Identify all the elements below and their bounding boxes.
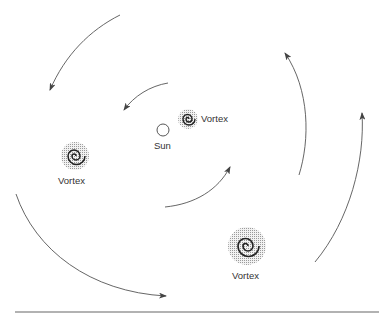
arrow-inner-top [124, 83, 168, 110]
arrow-outer-top-left [50, 15, 120, 90]
vortex-diagram: Sun Vortex Vortex Vortex [0, 0, 379, 313]
arrow-outer-right-1 [285, 53, 306, 175]
sun-icon [157, 124, 169, 136]
sun-node: Sun [154, 124, 171, 151]
vortex-left-label: Vortex [58, 175, 85, 186]
sun-label: Sun [154, 140, 171, 151]
vortex-large-label: Vortex [232, 270, 259, 281]
vortex-left-node: Vortex [58, 142, 89, 186]
arrow-outer-right-2 [315, 113, 362, 262]
vortex-halo-icon [228, 227, 266, 265]
arrow-inner-bottom [165, 167, 230, 207]
vortex-small-node: Vortex [178, 109, 228, 129]
arrow-outer-bottom-left [16, 194, 166, 296]
vortex-large-node: Vortex [228, 227, 266, 281]
vortex-small-label: Vortex [201, 113, 228, 124]
